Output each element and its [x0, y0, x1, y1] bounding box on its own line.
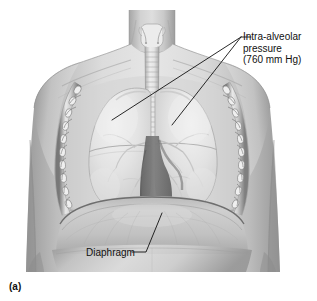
figure-panel-a: Intra-alveolar pressure (760 mm Hg) Diap…: [0, 0, 317, 301]
abdomen: [28, 245, 276, 272]
intra-alveolar-pressure-label: Intra-alveolar pressure (760 mm Hg): [243, 31, 301, 66]
intra-alveolar-line-3: (760 mm Hg): [243, 54, 301, 66]
panel-letter: (a): [9, 281, 21, 292]
diaphragm-label: Diaphragm: [86, 247, 135, 259]
larynx: [139, 24, 165, 48]
intra-alveolar-line-2: pressure: [243, 43, 301, 55]
intra-alveolar-line-1: Intra-alveolar: [243, 31, 301, 43]
